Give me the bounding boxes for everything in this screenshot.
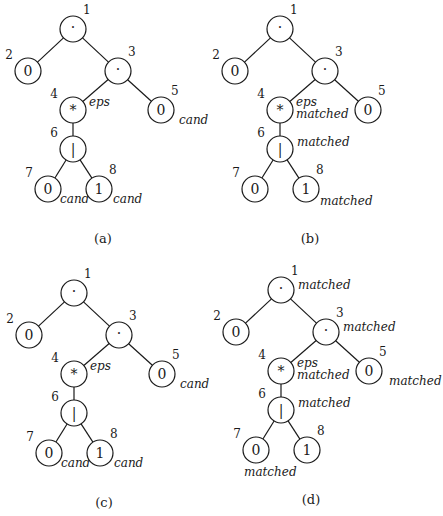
node-symbol: 0: [44, 181, 53, 197]
node-symbol: ·: [278, 19, 282, 35]
node-symbol: 0: [45, 445, 54, 461]
node-symbol: 1: [95, 181, 104, 197]
panel-caption: (d): [302, 492, 320, 507]
edge-1-2: [246, 299, 272, 323]
node-number: 7: [25, 166, 33, 180]
panel-caption: (c): [95, 495, 112, 510]
node-number: 5: [378, 84, 386, 98]
node-annotation: matched: [297, 135, 350, 149]
tree-node-2: 02: [212, 48, 248, 84]
node-symbol: |: [71, 141, 76, 158]
node-symbol: ·: [117, 325, 121, 341]
node-symbol: ·: [323, 61, 327, 77]
node-symbol: 0: [25, 327, 34, 343]
edge-3-5: [128, 80, 152, 102]
node-number: 3: [335, 45, 343, 59]
node-annotation: matched: [343, 320, 396, 334]
tree-panel-b: ·102·3*4epsmatched05|6matched0718matched…: [212, 3, 385, 246]
node-symbol: *: [277, 102, 284, 118]
node-annotation: eps: [90, 359, 111, 373]
node-symbol: 0: [24, 63, 33, 79]
tree-figure: ·102·3*4eps05cand|607cand18cand(a)·102·3…: [0, 0, 443, 516]
tree-node-5: 05matched: [356, 345, 442, 388]
node-number: 4: [258, 348, 266, 362]
node-annotation: matched: [244, 465, 297, 479]
node-number: 4: [51, 351, 59, 365]
edge-6-7: [263, 421, 274, 439]
tree-node-3: ·3matched: [313, 306, 396, 345]
node-number: 4: [50, 87, 58, 101]
tree-node-7: 07cand: [26, 430, 90, 470]
node-annotation: matched: [298, 396, 351, 410]
edge-1-3: [83, 38, 109, 62]
edge-6-8: [288, 421, 300, 439]
tree-node-4: *4epsmatched: [258, 348, 350, 384]
tree-node-6: |6matched: [258, 387, 351, 423]
node-number: 1: [291, 264, 299, 278]
edge-3-5: [335, 80, 359, 102]
node-symbol: ·: [72, 283, 76, 299]
node-symbol: 0: [252, 442, 261, 458]
node-annotation: matched: [298, 278, 351, 292]
edge-6-8: [81, 424, 93, 442]
node-symbol: ·: [279, 280, 283, 296]
edge-6-8: [80, 160, 92, 178]
node-symbol: ·: [116, 61, 120, 77]
tree-node-4: *4eps: [50, 87, 110, 123]
tree-node-4: *4epsmatched: [257, 87, 349, 123]
node-symbol: ·: [324, 322, 328, 338]
tree-node-7: 07: [232, 166, 268, 202]
edge-6-8: [287, 160, 299, 178]
node-number: 8: [316, 163, 324, 177]
node-symbol: 1: [96, 445, 105, 461]
edge-6-7: [262, 160, 273, 178]
node-symbol: 1: [302, 181, 311, 197]
node-symbol: |: [279, 402, 284, 419]
node-symbol: |: [278, 141, 283, 158]
node-symbol: 0: [232, 324, 241, 340]
node-annotation: matched: [296, 107, 349, 121]
edge-3-5: [129, 344, 153, 366]
node-number: 3: [336, 306, 344, 320]
node-number: 1: [84, 267, 92, 281]
tree-node-3: ·3: [312, 45, 343, 84]
tree-node-6: |6: [50, 126, 86, 162]
node-annotation: cand: [61, 456, 91, 470]
tree-node-6: |6matched: [257, 126, 350, 162]
node-number: 2: [6, 312, 14, 326]
tree-node-7: 07cand: [25, 166, 89, 206]
node-symbol: 0: [364, 102, 373, 118]
node-number: 8: [109, 163, 117, 177]
tree-node-6: |6: [51, 390, 87, 426]
edge-1-2: [38, 38, 64, 62]
node-number: 7: [26, 430, 34, 444]
node-number: 2: [213, 309, 221, 323]
expression-trees-canvas: ·102·3*4eps05cand|607cand18cand(a)·102·3…: [0, 0, 443, 516]
edge-6-7: [55, 160, 66, 178]
edge-3-5: [336, 341, 360, 363]
tree-node-5: 05cand: [148, 84, 209, 127]
node-number: 7: [233, 427, 241, 441]
node-number: 6: [257, 126, 265, 140]
edge-6-7: [56, 424, 67, 442]
tree-node-8: 18cand: [86, 163, 143, 206]
tree-node-3: ·3: [106, 309, 137, 348]
edge-1-3: [84, 302, 110, 326]
node-number: 5: [379, 345, 387, 359]
node-number: 5: [171, 84, 179, 98]
node-number: 3: [129, 309, 137, 323]
node-symbol: 0: [365, 363, 374, 379]
node-annotation: eps: [89, 95, 110, 109]
tree-node-1: ·1matched: [268, 264, 351, 303]
node-symbol: 0: [158, 366, 167, 382]
node-annotation: matched: [320, 194, 373, 208]
tree-node-2: 02: [213, 309, 249, 345]
node-symbol: 1: [303, 442, 312, 458]
node-symbol: 0: [251, 181, 260, 197]
panel-caption: (b): [301, 231, 319, 246]
tree-node-1: ·1: [60, 3, 91, 42]
node-annotation: cand: [179, 113, 209, 127]
node-number: 1: [290, 3, 298, 17]
node-number: 2: [212, 48, 220, 62]
tree-panel-a: ·102·3*4eps05cand|607cand18cand(a): [5, 3, 208, 246]
